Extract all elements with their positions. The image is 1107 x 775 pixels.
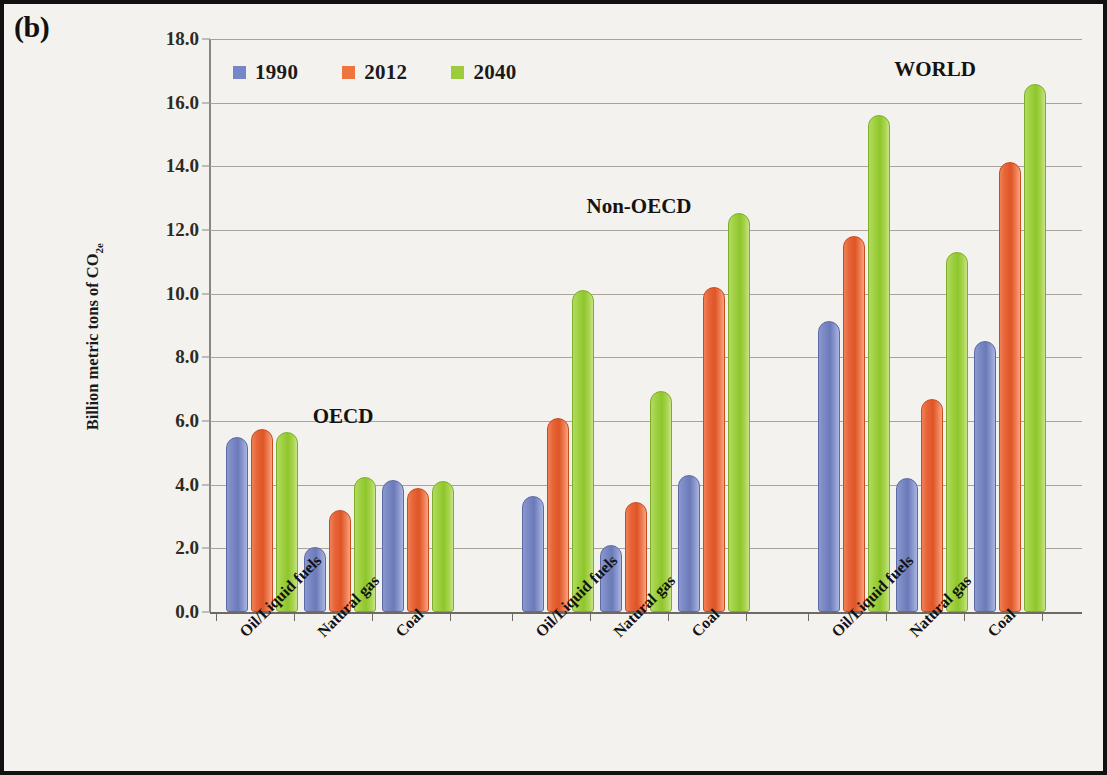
x-tick-mark xyxy=(964,612,965,621)
legend-swatch-icon xyxy=(233,66,246,79)
y-tick-mark xyxy=(202,484,210,485)
y-tick-label: 18.0 xyxy=(166,28,199,50)
y-tick-label: 14.0 xyxy=(166,155,199,177)
bar-2012 xyxy=(999,162,1021,612)
x-tick-mark xyxy=(668,612,669,621)
bar-1990 xyxy=(974,341,996,612)
x-tick-mark xyxy=(886,612,887,621)
bar-2040 xyxy=(432,481,454,612)
legend-label: 1990 xyxy=(255,60,298,85)
y-tick-label: 4.0 xyxy=(175,474,199,496)
figure-panel: (b) Billion metric tons of CO2e 0.02.04.… xyxy=(0,0,1107,775)
y-tick-label: 2.0 xyxy=(175,537,199,559)
y-tick-label: 10.0 xyxy=(166,283,199,305)
x-tick-mark xyxy=(294,612,295,621)
bar-2012 xyxy=(547,418,569,612)
chart-legend: 199020122040 xyxy=(233,60,517,85)
x-tick-mark xyxy=(372,612,373,621)
bar-2040 xyxy=(728,213,750,613)
y-axis-line xyxy=(209,39,211,612)
bar-2040 xyxy=(1024,84,1046,612)
legend-label: 2040 xyxy=(473,60,516,85)
legend-item-2040[interactable]: 2040 xyxy=(451,60,516,85)
group-heading-world: WORLD xyxy=(894,57,976,82)
bar-2040 xyxy=(572,290,594,612)
bar-2012 xyxy=(703,287,725,612)
group-heading-non-oecd: Non-OECD xyxy=(586,194,691,219)
bar-1990 xyxy=(678,475,700,612)
legend-swatch-icon xyxy=(342,66,355,79)
x-tick-mark xyxy=(808,612,809,621)
gridline xyxy=(210,230,1082,231)
bar-2012 xyxy=(251,429,273,612)
y-tick-mark xyxy=(202,548,210,549)
x-tick-mark xyxy=(216,612,217,621)
bar-1990 xyxy=(896,478,918,612)
y-tick-label: 8.0 xyxy=(175,346,199,368)
y-tick-label: 12.0 xyxy=(166,219,199,241)
x-tick-mark xyxy=(1042,612,1043,621)
y-tick-label: 16.0 xyxy=(166,92,199,114)
y-tick-mark xyxy=(202,102,210,103)
y-tick-mark xyxy=(202,166,210,167)
x-tick-mark xyxy=(450,612,451,621)
y-tick-mark xyxy=(202,230,210,231)
x-tick-mark xyxy=(512,612,513,621)
x-tick-mark xyxy=(590,612,591,621)
legend-item-2012[interactable]: 2012 xyxy=(342,60,407,85)
group-heading-oecd: OECD xyxy=(313,404,374,429)
y-tick-mark xyxy=(202,293,210,294)
y-tick-mark xyxy=(202,357,210,358)
bar-2012 xyxy=(407,488,429,612)
bar-2040 xyxy=(946,252,968,612)
legend-item-1990[interactable]: 1990 xyxy=(233,60,298,85)
gridline xyxy=(210,166,1082,167)
y-tick-label: 6.0 xyxy=(175,410,199,432)
legend-swatch-icon xyxy=(451,66,464,79)
bar-1990 xyxy=(226,437,248,612)
bar-1990 xyxy=(382,480,404,612)
bar-1990 xyxy=(818,321,840,612)
y-tick-mark xyxy=(202,612,210,613)
gridline xyxy=(210,103,1082,104)
panel-label: (b) xyxy=(14,10,49,44)
y-axis-title: Billion metric tons of CO2e xyxy=(83,177,104,497)
y-tick-mark xyxy=(202,39,210,40)
bar-2040 xyxy=(868,115,890,612)
x-tick-mark xyxy=(746,612,747,621)
y-tick-label: 0.0 xyxy=(175,601,199,623)
bar-1990 xyxy=(522,496,544,612)
bar-2012 xyxy=(921,399,943,612)
bar-2012 xyxy=(843,236,865,612)
legend-label: 2012 xyxy=(364,60,407,85)
y-tick-mark xyxy=(202,421,210,422)
gridline xyxy=(210,39,1082,40)
plot-area: 0.02.04.06.08.010.012.014.016.018.0 OECD… xyxy=(210,39,1082,612)
